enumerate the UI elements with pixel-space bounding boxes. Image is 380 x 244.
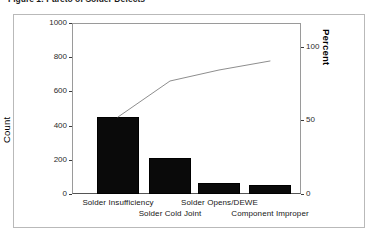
- x-label-solder-opens-dewe: Solder Opens/DEWE: [174, 198, 265, 207]
- y-tick-mark-800: [69, 57, 72, 58]
- bar-component-improper: [249, 185, 291, 194]
- y2-tick-label-100: 100: [306, 42, 319, 51]
- y-tick-mark-200: [69, 160, 72, 161]
- y2-tick-label-0: 0: [306, 189, 310, 198]
- y-axis-title-count: Count: [1, 117, 12, 143]
- x-label-solder-insufficiency: Solder Insufficiency: [70, 198, 166, 207]
- y-tick-mark-400: [69, 126, 72, 127]
- y-tick-label-0: 0: [63, 189, 67, 198]
- pareto-chart: Count 1000 800 600 400 200 0 Percent 100…: [14, 15, 364, 227]
- bar-solder-opens-dewe: [198, 183, 240, 194]
- y2-axis-title-percent: Percent: [321, 29, 332, 65]
- x-label-component-improper: Component Improper: [222, 209, 318, 218]
- y-tick-label-600: 600: [54, 86, 67, 95]
- y-tick-label-800: 800: [54, 52, 67, 61]
- y-tick-label-200: 200: [54, 155, 67, 164]
- y-tick-label-400: 400: [54, 121, 67, 130]
- y2-tick-mark-100: [301, 47, 304, 48]
- y2-tick-mark-0: [301, 194, 304, 195]
- y-tick-mark-1000: [69, 23, 72, 24]
- y-tick-mark-0: [69, 194, 72, 195]
- bar-solder-insufficiency: [97, 117, 139, 194]
- figure-caption: Figure 1: Pareto of Solder Defects: [8, 0, 308, 5]
- bar-solder-cold-joint: [149, 158, 191, 194]
- y-tick-mark-600: [69, 91, 72, 92]
- figure-frame: Count 1000 800 600 400 200 0 Percent 100…: [13, 14, 365, 228]
- y2-tick-label-50: 50: [306, 115, 315, 124]
- x-label-solder-cold-joint: Solder Cold Joint: [125, 209, 215, 218]
- y2-tick-mark-50: [301, 120, 304, 121]
- y-tick-label-1000: 1000: [49, 18, 67, 27]
